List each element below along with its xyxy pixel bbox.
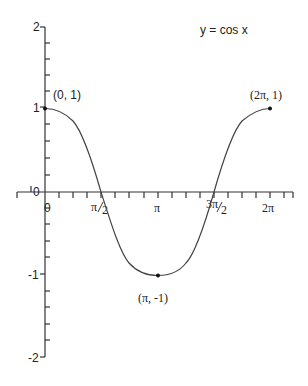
x-tick-label-0: 0 [44,201,51,215]
x-tick-label-pi-half: π 2 [91,200,108,217]
y-tick-label-0: 0 [33,185,40,199]
annotation-end: (2π, 1) [250,88,282,102]
chart-title: y = cos x [200,23,248,37]
x-tick-label-pi: π [154,201,160,215]
annotation-min: (π, -1) [138,291,168,305]
y-tick-label-2: 2 [33,20,40,34]
y-tick-label-1: 1 [33,101,40,115]
y-tick-label-neg2: -2 [28,351,39,365]
svg-text:π: π [91,200,97,214]
annotation-start: (0, 1) [53,88,81,102]
point-marker-min [156,274,160,278]
x-tick-label-2pi: 2π [262,201,274,215]
y-tick-label-neg1: -1 [28,268,39,282]
x-axis [17,186,293,198]
svg-text:2: 2 [221,203,227,217]
point-marker-start [43,107,47,111]
point-marker-end [268,107,272,111]
cosine-chart: y = cos x [0,0,308,386]
